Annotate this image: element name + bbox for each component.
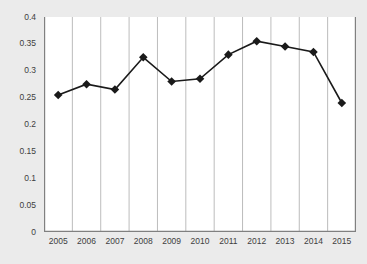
y-tick-label: 0.15 <box>19 147 36 156</box>
chart-container: 00.050.10.150.20.250.30.350.4 2005200620… <box>0 0 367 264</box>
y-tick-label: 0.3 <box>24 66 36 75</box>
x-tick-label: 2014 <box>304 236 323 246</box>
x-tick-label: 2010 <box>191 236 210 246</box>
plot-area <box>44 17 356 232</box>
x-tick-label: 2012 <box>247 236 266 246</box>
data-point-marker <box>252 37 261 46</box>
line-chart-svg <box>44 17 356 232</box>
y-tick-label: 0.05 <box>19 201 36 210</box>
vertical-gridlines <box>72 17 327 232</box>
x-tick-label: 2007 <box>105 236 124 246</box>
x-tick-label: 2015 <box>332 236 351 246</box>
y-tick-label: 0.4 <box>24 13 36 22</box>
data-point-marker <box>54 91 63 100</box>
data-point-marker <box>82 80 91 89</box>
y-tick-label: 0.2 <box>24 120 36 129</box>
x-tick-label: 2011 <box>219 236 237 246</box>
y-tick-label: 0.25 <box>19 93 36 102</box>
y-tick-label: 0.35 <box>19 39 36 48</box>
y-tick-label: 0.1 <box>24 174 36 183</box>
data-point-markers <box>54 37 346 107</box>
data-point-marker <box>281 42 290 51</box>
x-tick-label: 2006 <box>77 236 96 246</box>
y-tick-label: 0 <box>31 228 36 237</box>
x-tick-label: 2005 <box>49 236 68 246</box>
x-tick-label: 2009 <box>162 236 181 246</box>
x-axis: 2005200620072008200920102011201220132014… <box>44 236 356 250</box>
y-axis: 00.050.10.150.20.250.30.350.4 <box>0 0 40 264</box>
x-tick-label: 2013 <box>276 236 295 246</box>
data-point-marker <box>309 48 318 57</box>
x-tick-label: 2008 <box>134 236 153 246</box>
data-point-marker <box>338 99 347 108</box>
